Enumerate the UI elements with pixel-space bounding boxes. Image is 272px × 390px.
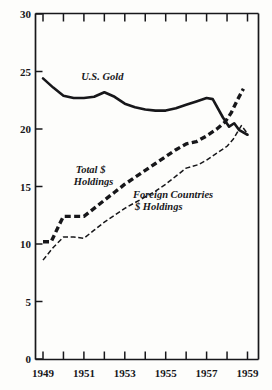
chart-container: 051015202530 194919511953195519571959 U.…	[0, 0, 272, 390]
x-tick-label-1951: 1951	[73, 367, 95, 379]
y-tick-label-25: 25	[20, 66, 32, 78]
x-tick-label-1955: 1955	[155, 367, 178, 379]
foreign-label-line1: Foreign Countries	[132, 189, 213, 200]
y-tick-label-10: 10	[20, 238, 32, 250]
y-tick-label-30: 30	[20, 8, 32, 20]
y-tick-label-0: 0	[26, 353, 32, 365]
x-tick-label-1957: 1957	[196, 367, 219, 379]
total-holdings-label-line2: Holdings	[73, 176, 114, 187]
line-chart: 051015202530 194919511953195519571959 U.…	[0, 0, 272, 390]
x-tick-label-1949: 1949	[32, 367, 55, 379]
us-gold-label: U.S. Gold	[81, 71, 124, 82]
total-holdings-label-line1: Total $	[76, 164, 106, 175]
x-tick-label-1953: 1953	[114, 367, 137, 379]
foreign-label-line2: $ Holdings	[134, 201, 183, 212]
y-tick-label-15: 15	[20, 181, 32, 193]
y-tick-label-5: 5	[26, 296, 32, 308]
y-tick-label-20: 20	[20, 123, 32, 135]
x-tick-label-1959: 1959	[237, 367, 260, 379]
